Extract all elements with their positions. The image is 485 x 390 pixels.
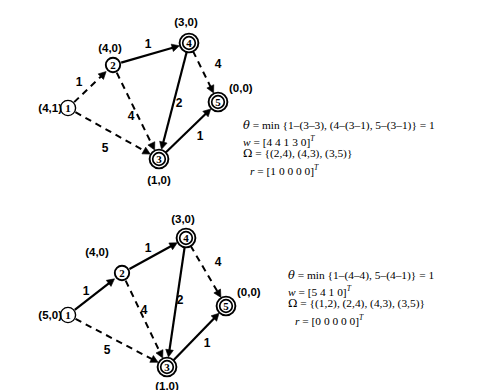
equation-block-bottom: θ = min {1–(4–4), 5–(4–1)} = 1w = [5 4 1… (288, 268, 434, 325)
equation-line-bottom-2: Ω = {(1,2), (2,4), (4,3), (3,5)} (288, 296, 434, 310)
node-label-bottom-1: 1 (65, 309, 71, 321)
node-bottom-4[interactable]: 4 (177, 229, 196, 248)
node-pair-bottom-1: (5,0) (38, 309, 62, 321)
edge-bottom-3-5: 1 (173, 313, 219, 360)
graph-bottom: 114524112345(5,0)(4,0)(1,0)(3,0)(0,0) (0, 0, 250, 195)
edge-bottom-4-3: 2 (166, 247, 185, 357)
node-bottom-1[interactable]: 1 (60, 307, 75, 322)
edge-weight-bottom-2-3: 4 (141, 303, 148, 317)
equation-line-bottom-0: θ = min {1–(4–4), 5–(4–1)} = 1 (288, 268, 434, 282)
node-bottom-3[interactable]: 3 (158, 358, 177, 377)
node-pair-bottom-5: (0,0) (237, 286, 261, 298)
equation-line-bottom-3: r = [0 0 0 0 0]T (288, 311, 434, 325)
edge-weight-bottom-2-4: 1 (145, 241, 152, 255)
node-pair-bottom-4: (3,0) (171, 213, 195, 225)
equation-rhs-bottom-3: = [0 0 0 0 0] (302, 314, 359, 326)
edge-weight-bottom-1-2: 1 (83, 284, 90, 298)
edge-weight-bottom-4-3: 2 (177, 293, 184, 307)
node-label-bottom-3: 3 (164, 361, 170, 373)
equation-transpose-bottom-3: T (359, 313, 363, 322)
node-bottom-2[interactable]: 2 (115, 266, 129, 280)
node-label-bottom-4: 4 (183, 232, 189, 244)
graph-canvas-bottom: 114524112345(5,0)(4,0)(1,0)(3,0)(0,0) (0, 0, 485, 390)
equation-rhs-bottom-0: = min {1–(4–4), 5–(4–1)} = 1 (298, 269, 434, 281)
equation-transpose-bottom-1: T (347, 284, 351, 293)
graph-panel-bottom: 114524112345(5,0)(4,0)(1,0)(3,0)(0,0)θ =… (0, 0, 485, 195)
equation-lhs-bottom-0: θ (288, 268, 295, 282)
edge-bottom-4-5: 4 (191, 246, 222, 298)
edge-weight-bottom-3-5: 1 (204, 336, 211, 350)
edge-weight-bottom-1-3: 5 (104, 343, 111, 357)
edge-bottom-1-2: 1 (75, 279, 115, 310)
node-label-bottom-2: 2 (119, 267, 125, 279)
node-label-bottom-5: 5 (223, 300, 229, 312)
node-bottom-5[interactable]: 5 (217, 297, 236, 316)
node-pair-bottom-3: (1,0) (155, 380, 179, 390)
edge-layer-bottom: 1145241 (75, 241, 222, 362)
edge-bottom-2-4: 1 (129, 241, 177, 269)
edge-bottom-2-3: 4 (126, 281, 163, 358)
edge-bottom-1-3: 5 (76, 319, 159, 362)
figure-canvas: 114524112345(4,1)(4,0)(1,0)(3,0)(0,0)θ =… (0, 0, 485, 390)
edge-weight-bottom-4-5: 4 (215, 255, 222, 269)
equation-rhs-bottom-2: = {(1,2), (2,4), (4,3), (3,5)} (300, 297, 425, 309)
node-pair-bottom-2: (4,0) (85, 246, 109, 258)
equation-line-bottom-1: w = [5 4 1 0]T (288, 282, 434, 296)
